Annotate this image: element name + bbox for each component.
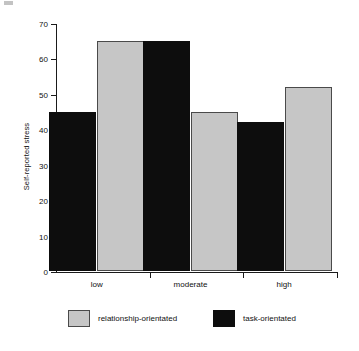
- bar-low-task: [49, 112, 96, 271]
- y-axis-tick-label: 10: [39, 232, 48, 241]
- bar-chart-figure: Self-reported stress 010203040506070 low…: [0, 0, 359, 351]
- bar-moderate-relationship: [191, 112, 238, 271]
- y-axis-tick-label: 0: [44, 268, 48, 277]
- y-axis-tick: 50: [51, 95, 56, 96]
- bar-moderate-task: [143, 41, 190, 271]
- bar-low-relationship: [97, 41, 144, 271]
- chart-legend: relationship-orientatedtask-orientated: [0, 310, 359, 340]
- legend-label: relationship-orientated: [98, 314, 177, 323]
- y-axis-tick: 0: [51, 272, 56, 273]
- y-axis-tick-label: 20: [39, 197, 48, 206]
- legend-swatch-relationship: [68, 310, 90, 327]
- x-axis-separator-tick: [150, 273, 151, 278]
- legend-entry-task: task-orientated: [213, 310, 296, 327]
- bar-high-task: [237, 122, 284, 271]
- x-axis-separator-tick: [337, 273, 338, 278]
- legend-entry-relationship: relationship-orientated: [68, 310, 177, 327]
- x-axis-line: [56, 272, 338, 273]
- x-axis-label-high: high: [277, 280, 292, 289]
- x-axis-separator-tick: [243, 273, 244, 278]
- y-axis-tick-label: 30: [39, 161, 48, 170]
- legend-label: task-orientated: [243, 314, 296, 323]
- y-axis-tick-label: 70: [39, 20, 48, 29]
- legend-swatch-task: [213, 310, 235, 327]
- y-axis-tick: 60: [51, 59, 56, 60]
- scan-artifact-speck: [4, 1, 13, 5]
- x-axis-label-moderate: moderate: [174, 280, 208, 289]
- y-axis-tick-label: 50: [39, 90, 48, 99]
- y-axis-tick-label: 40: [39, 126, 48, 135]
- bar-high-relationship: [285, 87, 332, 271]
- plot-area: 010203040506070 lowmoderatehigh: [56, 24, 337, 272]
- x-axis-label-low: low: [91, 280, 103, 289]
- y-axis-tick: 70: [51, 24, 56, 25]
- y-axis-title: Self-reported stress: [22, 87, 31, 227]
- y-axis-tick-label: 60: [39, 55, 48, 64]
